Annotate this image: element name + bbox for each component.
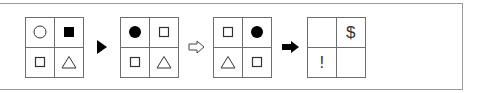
grid-4: $ ! <box>307 17 366 78</box>
cell <box>121 18 150 48</box>
exclaim-symbol: ! <box>319 54 324 71</box>
cell <box>121 48 150 78</box>
cell <box>150 48 179 78</box>
triangle-arrow-icon <box>97 40 107 54</box>
block-arrow-filled-icon <box>282 41 299 53</box>
cell <box>55 48 84 78</box>
square-outline-icon <box>158 26 170 38</box>
cell <box>214 48 243 78</box>
circle-filled-icon <box>128 25 142 39</box>
cell <box>26 48 55 78</box>
square-filled-icon <box>63 26 75 38</box>
grid-2 <box>120 17 179 78</box>
cell <box>150 18 179 48</box>
triangle-outline-icon <box>220 55 236 69</box>
grid-1 <box>25 17 84 78</box>
cell <box>214 18 243 48</box>
circle-filled-icon <box>250 25 264 39</box>
cell <box>26 18 55 48</box>
cell-empty <box>308 18 337 48</box>
cell: ! <box>308 48 337 78</box>
square-outline-icon <box>222 26 234 38</box>
square-outline-icon <box>34 56 46 68</box>
grid-3 <box>213 17 272 78</box>
cell-empty <box>337 48 366 78</box>
cell: $ <box>337 18 366 48</box>
block-arrow-outline-icon <box>188 40 205 54</box>
cell <box>243 18 272 48</box>
dollar-symbol: $ <box>346 24 355 41</box>
triangle-outline-icon <box>156 55 172 69</box>
circle-outline-icon <box>33 25 47 39</box>
cell <box>55 18 84 48</box>
square-outline-icon <box>251 56 263 68</box>
square-outline-icon <box>129 56 141 68</box>
cell <box>243 48 272 78</box>
triangle-outline-icon <box>61 55 77 69</box>
